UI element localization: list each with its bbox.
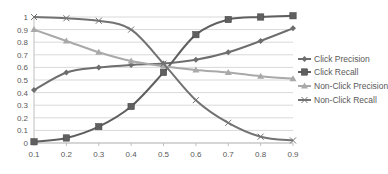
y-tick-label: 0	[24, 139, 29, 148]
y-tick-label: 0.2	[17, 114, 29, 123]
legend-item: Non-Click Recall	[298, 95, 377, 105]
series-click-precision	[31, 25, 296, 93]
x-tick-label: 0.7	[223, 150, 235, 159]
x-tick-label: 0.5	[158, 150, 170, 159]
y-tick-label: 1	[24, 13, 29, 22]
y-tick-label: 0.8	[17, 38, 29, 47]
x-tick-label: 0.3	[93, 150, 105, 159]
legend-item: Non-Click Precision	[298, 81, 388, 91]
series-click-recall	[31, 13, 296, 145]
y-axis: 00.10.20.30.40.50.60.70.80.91	[17, 13, 34, 148]
x-tick-label: 0.4	[126, 150, 138, 159]
series-non-click-recall	[31, 14, 296, 143]
y-tick-label: 0.5	[17, 76, 29, 85]
legend: Click PrecisionClick RecallNon-Click Pre…	[298, 54, 388, 105]
x-tick-label: 0.9	[287, 150, 299, 159]
legend-item: Click Precision	[298, 54, 370, 64]
x-tick-label: 0.2	[61, 150, 73, 159]
legend-label: Click Precision	[314, 54, 370, 64]
y-tick-label: 0.7	[17, 51, 29, 60]
x-tick-label: 0.6	[190, 150, 202, 159]
legend-item: Click Recall	[298, 67, 359, 77]
legend-label: Non-Click Recall	[314, 95, 377, 105]
x-tick-label: 0.8	[255, 150, 267, 159]
legend-label: Click Recall	[314, 67, 359, 77]
series-lines	[31, 13, 297, 145]
legend-label: Non-Click Precision	[314, 81, 388, 91]
gridlines	[34, 17, 293, 143]
y-tick-label: 0.6	[17, 63, 29, 72]
y-tick-label: 0.9	[17, 26, 29, 35]
y-tick-label: 0.3	[17, 101, 29, 110]
x-tick-label: 0.1	[28, 150, 40, 159]
y-tick-label: 0.1	[17, 126, 29, 135]
x-axis: 0.10.20.30.40.50.60.70.80.9	[28, 143, 299, 159]
line-chart: 00.10.20.30.40.50.60.70.80.91 0.10.20.30…	[0, 0, 388, 174]
y-tick-label: 0.4	[17, 89, 29, 98]
